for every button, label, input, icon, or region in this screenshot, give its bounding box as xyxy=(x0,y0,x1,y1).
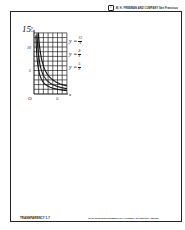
x-axis-label: x xyxy=(68,92,72,97)
x-tick-label: 5 xyxy=(56,96,59,101)
fraction-denominator: x xyxy=(79,55,81,59)
y-tick-label: 10 xyxy=(27,45,31,50)
equation-lhs: y = xyxy=(69,51,77,57)
book-credit: To be used with ELEMENTARY ALGEBRA by Ha… xyxy=(88,217,159,220)
equation-12-over-x: y = 12 x xyxy=(69,37,82,45)
equation-8-over-x: y = 8 x xyxy=(69,50,81,58)
fraction: 8 x xyxy=(78,50,80,58)
y-tick-label: 5 xyxy=(29,68,31,73)
fraction-denominator: x xyxy=(79,68,81,72)
x-tick-label: O xyxy=(28,96,32,101)
transparency-label: TRANSPARENCY 1-7 xyxy=(20,216,50,220)
equation-5-over-x: y = 5 x xyxy=(69,63,81,71)
y-axis-label: y xyxy=(30,25,34,30)
fraction-denominator: x xyxy=(80,42,82,46)
fraction: 12 x xyxy=(78,37,82,45)
fraction: 5 x xyxy=(78,63,80,71)
equation-lhs: y = xyxy=(69,38,77,44)
hyperbola-chart: O5510xy xyxy=(0,0,185,230)
equation-lhs: y = xyxy=(69,64,77,70)
